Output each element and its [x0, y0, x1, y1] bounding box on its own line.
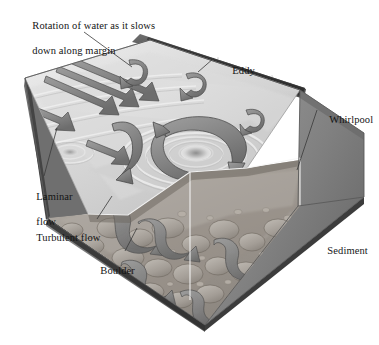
label-eddy: Eddy: [216, 52, 255, 90]
label-whirlpool: Whirlpool: [313, 101, 373, 139]
label-laminar-flow-line1: Laminar: [36, 191, 72, 202]
label-sediment: Sediment: [311, 232, 368, 270]
label-boulder-text: Boulder: [100, 265, 135, 276]
label-eddy-text: Eddy: [232, 65, 255, 76]
label-boulder: Boulder: [84, 252, 135, 290]
left-dimple-core: [62, 148, 78, 156]
label-turbulent-flow-text: Turbulent flow: [36, 232, 100, 243]
central-vortex-depression: [181, 146, 211, 161]
label-rotation-of-water: Rotation of water as it slows down along…: [16, 7, 155, 70]
label-sediment-text: Sediment: [327, 245, 367, 256]
label-rotation-of-water-line1: Rotation of water as it slows: [32, 20, 155, 31]
label-rotation-of-water-line2: down along margin: [32, 45, 115, 56]
stream-flow-block-diagram: Rotation of water as it slows down along…: [0, 0, 379, 345]
label-turbulent-flow: Turbulent flow: [20, 219, 100, 257]
label-whirlpool-text: Whirlpool: [329, 114, 373, 125]
